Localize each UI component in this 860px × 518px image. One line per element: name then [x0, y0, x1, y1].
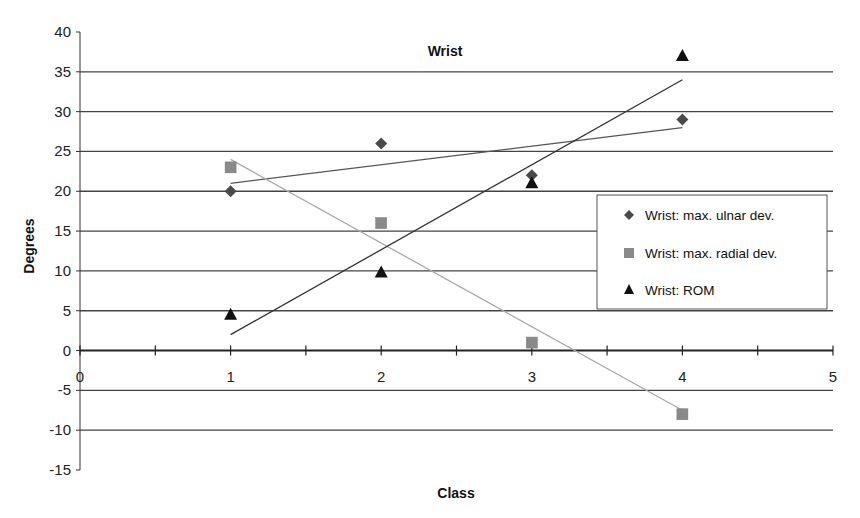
data-point-triangle	[224, 308, 237, 320]
x-tick-label: 0	[76, 368, 84, 385]
y-tick-label: 15	[54, 222, 71, 239]
chart: -15-10-50510152025303540012345 Wrist Cla…	[0, 0, 860, 518]
x-axis-title: Class	[437, 485, 475, 501]
y-tick-label: -5	[58, 381, 71, 398]
legend-label: Wrist: max. radial dev.	[645, 246, 777, 261]
data-point-triangle	[525, 176, 538, 188]
y-tick-label: 20	[54, 182, 71, 199]
y-tick-label: 30	[54, 103, 71, 120]
legend-item-radial: Wrist: max. radial dev.	[624, 246, 777, 261]
data-point-diamond	[676, 114, 688, 126]
y-tick-label: 10	[54, 262, 71, 279]
y-tick-label: 0	[63, 342, 71, 359]
data-point-diamond	[225, 185, 237, 197]
y-tick-label: -10	[49, 421, 71, 438]
legend-label: Wrist: ROM	[645, 283, 715, 298]
data-point-square	[677, 409, 688, 420]
legend: Wrist: max. ulnar dev. Wrist: max. radia…	[597, 195, 827, 309]
trendline-diamond	[231, 128, 683, 184]
legend-item-ulnar: Wrist: max. ulnar dev.	[624, 208, 774, 223]
chart-title: Wrist	[428, 43, 463, 59]
x-tick-label: 4	[678, 368, 686, 385]
square-marker-icon	[624, 248, 634, 258]
data-point-diamond	[375, 137, 387, 149]
y-tick-label: 5	[63, 302, 71, 319]
y-tick-label: 40	[54, 23, 71, 40]
y-tick-label: -15	[49, 461, 71, 478]
x-tick-label: 2	[377, 368, 385, 385]
y-tick-label: 35	[54, 63, 71, 80]
legend-label: Wrist: max. ulnar dev.	[645, 208, 774, 223]
data-point-square	[526, 337, 537, 348]
y-axis-title: Degrees	[21, 218, 37, 273]
x-tick-label: 1	[226, 368, 234, 385]
x-tick-label: 3	[528, 368, 536, 385]
data-point-square	[225, 162, 236, 173]
y-tick-label: 25	[54, 142, 71, 159]
data-point-square	[376, 218, 387, 229]
data-point-triangle	[676, 49, 689, 61]
x-tick-label: 5	[829, 368, 837, 385]
